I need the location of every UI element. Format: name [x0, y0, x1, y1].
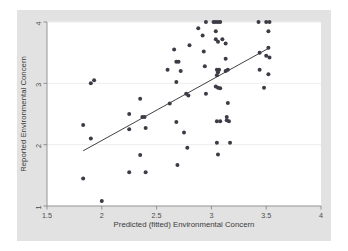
data-point [185, 146, 189, 150]
data-point [226, 101, 230, 105]
x-tick-label: 2 [100, 211, 104, 220]
data-point [215, 73, 219, 77]
data-point [267, 56, 271, 60]
data-point [266, 46, 270, 50]
data-point [89, 137, 93, 141]
y-axis-tick-labels: 1234 [34, 21, 43, 209]
data-point [258, 51, 262, 55]
data-point [228, 141, 232, 145]
data-point [144, 126, 148, 130]
data-point [258, 68, 262, 72]
data-point [257, 20, 261, 24]
data-point [138, 153, 142, 157]
y-axis-ticks [44, 22, 48, 206]
data-point [218, 119, 222, 123]
y-tick-label: 3 [34, 83, 43, 87]
y-axis-title: Reported Environmental Concern [19, 56, 28, 172]
x-axis-tick-labels: 1.522.533.54 [42, 211, 323, 220]
data-point [187, 43, 191, 47]
data-point [224, 57, 228, 61]
data-point [216, 40, 220, 44]
data-point [179, 69, 183, 73]
data-point [174, 80, 178, 84]
data-point [201, 33, 205, 37]
data-point [172, 48, 176, 52]
data-point [224, 41, 228, 45]
data-point [144, 170, 148, 174]
data-point [203, 64, 207, 68]
x-tick-label: 2.5 [152, 211, 162, 220]
data-point [168, 102, 172, 106]
data-point [227, 119, 231, 123]
data-point [143, 115, 147, 119]
data-point [81, 176, 85, 180]
data-point [174, 120, 178, 124]
data-point [202, 49, 206, 53]
data-point [127, 127, 131, 131]
data-point [100, 199, 104, 203]
data-point [81, 123, 85, 127]
plot-panel [47, 22, 321, 206]
data-point [196, 26, 200, 30]
x-tick-label: 3.5 [261, 211, 271, 220]
data-point [215, 141, 219, 145]
x-tick-label: 1.5 [42, 211, 52, 220]
data-point [127, 112, 131, 116]
data-point [138, 97, 142, 101]
y-tick-label: 4 [34, 21, 43, 25]
x-axis-ticks [47, 206, 321, 210]
plot-canvas: 1.522.533.54 1234 Predicted (fitted) Env… [0, 0, 348, 251]
data-point [127, 170, 131, 174]
data-point [92, 78, 96, 82]
x-axis-title: Predicted (fitted) Environmental Concern [114, 220, 255, 229]
data-point [166, 68, 170, 72]
data-point [204, 92, 208, 96]
data-point [89, 81, 93, 85]
data-point [214, 29, 218, 33]
y-tick-label: 1 [34, 205, 43, 209]
data-point [177, 60, 181, 64]
data-point [186, 94, 190, 98]
data-point [267, 20, 271, 24]
data-point [204, 20, 208, 24]
data-point [216, 152, 220, 156]
data-point [218, 86, 222, 90]
data-point [182, 130, 186, 134]
data-point [175, 163, 179, 167]
scatter-plot-figure: 1.522.533.54 1234 Predicted (fitted) Env… [0, 0, 348, 251]
y-tick-label: 2 [34, 144, 43, 148]
data-point [218, 20, 222, 24]
x-tick-label: 3 [209, 211, 213, 220]
data-point [220, 37, 224, 41]
data-point [226, 68, 230, 72]
data-point [266, 72, 270, 76]
data-point [266, 29, 270, 33]
x-tick-label: 4 [319, 211, 323, 220]
data-point [262, 86, 266, 90]
